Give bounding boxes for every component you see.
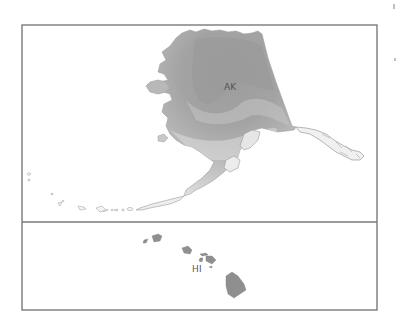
inset-map — [0, 0, 397, 324]
edge-artifacts — [393, 4, 396, 61]
hawaii-label: HI — [192, 264, 202, 274]
alaska-label: AK — [224, 82, 236, 92]
